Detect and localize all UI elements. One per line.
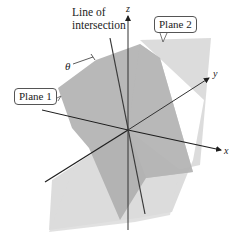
planes-diagram: Line of intersection z y x θ Plane 1 Pla… [0,0,239,237]
plane-1-callout: Plane 1 [14,88,57,105]
diagram-canvas [0,0,239,237]
line-of-intersection-label: Line of intersection [72,6,126,32]
theta-leader [73,57,93,64]
loi-label-line2: intersection [72,19,126,32]
axis-y-label: y [213,68,217,79]
axis-x-label: x [224,145,228,156]
theta-tick [91,54,95,60]
plane1-callout-pointer [57,96,61,101]
plane-2-callout: Plane 2 [154,16,197,33]
loi-label-line1: Line of [72,6,126,19]
axis-z-label: z [126,3,130,14]
theta-label: θ [65,60,70,72]
